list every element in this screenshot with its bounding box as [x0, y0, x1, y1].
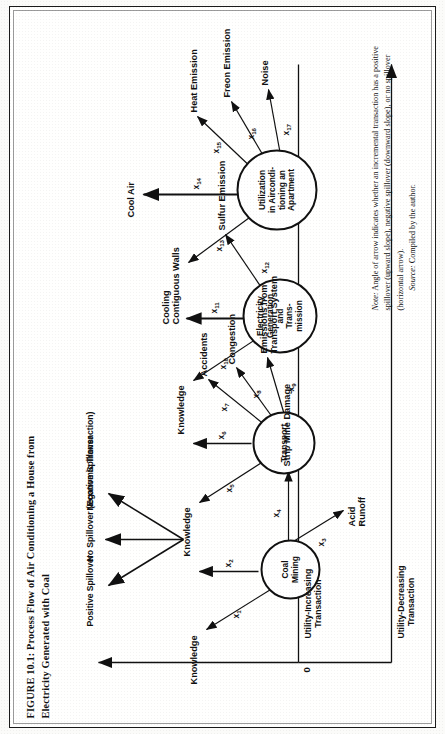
- flow-var-x7: x7: [219, 403, 231, 411]
- flow-label-x13: CoolingContiguous Walls: [160, 247, 181, 324]
- source-label: Source:: [407, 265, 416, 290]
- legend-arrow-negative: [108, 493, 183, 539]
- node-coal-mining-label: CoalMining: [280, 556, 300, 583]
- flow-arrow-x7: [208, 379, 265, 425]
- node-utilization-label: Utilizationin Aircondi-tioning anApartme…: [257, 166, 297, 212]
- flow-var-x5: x5: [224, 484, 236, 492]
- flow-label-x4: Strip Mine Damage: [281, 383, 291, 466]
- flow-var-x2: x2: [223, 559, 235, 567]
- flow-label-x5: Knowledge: [181, 507, 191, 556]
- flow-label-x1: Knowledge: [188, 635, 198, 684]
- flow-var-x17: x17: [281, 123, 293, 135]
- flow-label-x15: Heat Emission: [188, 49, 198, 112]
- flow-var-x4: x4: [271, 509, 283, 517]
- flow-label-x7: Accidents: [198, 332, 208, 376]
- flow-var-x15: x15: [211, 141, 223, 153]
- flow-var-x8: x8: [251, 390, 263, 398]
- flow-label-x3: AcidRunoff: [346, 496, 367, 526]
- flow-label-x10: Knowledge: [175, 385, 185, 434]
- axis-label-utility-decreasing: Utility-DecreasingTransaction: [396, 565, 416, 638]
- flow-var-x16: x16: [246, 127, 258, 139]
- flow-label-x8: Congestion: [226, 313, 236, 364]
- note-label: Note:: [370, 292, 379, 310]
- flow-arrow-x5: [199, 459, 266, 502]
- legend-label-negative: Negative Spillover: [85, 435, 95, 510]
- rotated-figure-viewport: FIGURE 10.1: Process Flow of Air Conditi…: [13, 10, 432, 724]
- source-text: Compiled by the author.: [407, 184, 416, 265]
- axis-label-utility-increasing: Utility-IncreasingTransaction: [303, 568, 323, 638]
- flow-label-x12: Sulfur Emission: [216, 160, 226, 230]
- legend-arrow-positive: [108, 539, 183, 585]
- flow-var-x12: x12: [259, 261, 271, 273]
- flow-var-x14: x14: [191, 177, 203, 189]
- note-text: Angle of arrow indicates whether an incr…: [370, 46, 404, 310]
- figure-note-block: Note: Angle of arrow indicates whether a…: [369, 18, 418, 310]
- flow-var-x11: x11: [209, 302, 221, 313]
- flow-var-x6: x6: [216, 431, 228, 439]
- flow-var-x1: x1: [231, 610, 243, 618]
- axis-origin-label: 0: [301, 667, 312, 672]
- flow-var-x3: x3: [316, 538, 328, 546]
- node-electricity-generation[interactable]: ElectricityGenerationandTrans-mission: [242, 278, 317, 353]
- legend-arrow-group: [105, 493, 183, 585]
- flow-label-x9: Emissions fromTransport System: [258, 275, 279, 353]
- flow-label-x16: Freon Emission: [221, 28, 231, 97]
- legend-label-positive: Positive Spillover: [85, 554, 95, 626]
- figure-page: FIGURE 10.1: Process Flow of Air Conditi…: [0, 0, 445, 734]
- flow-label-x17: Noise: [259, 60, 269, 85]
- figure-canvas: FIGURE 10.1: Process Flow of Air Conditi…: [13, 10, 432, 724]
- flow-label-x14: Cool Air: [125, 182, 135, 217]
- node-utilization[interactable]: Utilizationin Aircondi-tioning anApartme…: [236, 149, 317, 230]
- flow-var-x13: x13: [214, 239, 226, 251]
- flow-arrow-x1: [206, 586, 275, 629]
